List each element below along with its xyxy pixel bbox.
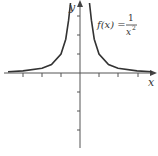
y-axis-label: y <box>68 1 76 14</box>
function-label-numerator: 1 <box>128 13 134 23</box>
function-label-lhs: f(x) = <box>96 19 126 30</box>
y-axis-arrow-icon <box>77 0 83 7</box>
curve-left-branch <box>8 3 71 72</box>
function-plot: y x f(x) = 1 x 2 <box>0 0 158 156</box>
curve-right-branch <box>90 3 153 72</box>
function-label-exponent: 2 <box>132 24 136 31</box>
function-label-denominator: x <box>126 27 131 37</box>
x-axis-label: x <box>148 76 155 89</box>
